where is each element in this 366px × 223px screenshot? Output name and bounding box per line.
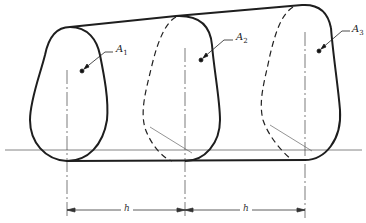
dimension-h-1: h (121, 204, 133, 213)
centerlines (67, 32, 305, 218)
label-a3: A3 (352, 24, 364, 37)
label-a1: A1 (116, 44, 128, 57)
hatch-lines (150, 125, 312, 153)
label-a1-sub: 1 (123, 49, 127, 57)
label-a2-sub: 2 (243, 37, 247, 45)
dimension-h-2: h (240, 204, 252, 213)
label-a3-sub: 3 (359, 29, 363, 37)
dimension-lines (67, 208, 305, 212)
prismoid-diagram (0, 0, 366, 223)
label-a2: A2 (236, 32, 248, 45)
hidden-outlines (143, 7, 293, 161)
